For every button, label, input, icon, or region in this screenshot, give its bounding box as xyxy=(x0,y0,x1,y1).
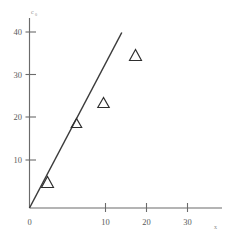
x-axis-tick-labels: 0 10 20 30 xyxy=(27,217,191,227)
y-tick-label-30: 30 xyxy=(14,70,23,80)
x-tick-label-30: 30 xyxy=(183,217,192,227)
y-tick-label-10: 10 xyxy=(14,155,23,165)
y-axis-label-subscript: 0 xyxy=(35,12,37,17)
y-axis-label: c xyxy=(31,9,34,15)
data-markers-group xyxy=(42,50,142,188)
y-axis-ticks xyxy=(26,32,37,160)
y-tick-label-20: 20 xyxy=(14,112,23,122)
axis-labels-group: c 0 x xyxy=(31,9,217,230)
axes-group xyxy=(30,18,223,208)
y-axis-tick-labels: 40 30 20 10 xyxy=(14,27,23,165)
x-tick-label-20: 20 xyxy=(142,217,151,227)
data-point-marker xyxy=(98,98,109,108)
data-point-marker xyxy=(130,50,142,61)
x-tick-label-10: 10 xyxy=(101,217,110,227)
scatter-plot-svg: 40 30 20 10 0 10 20 30 c 0 x xyxy=(0,0,233,237)
chart-container: 40 30 20 10 0 10 20 30 c 0 x xyxy=(0,0,233,237)
x-tick-label-0: 0 xyxy=(27,217,31,227)
y-tick-label-40: 40 xyxy=(14,27,23,37)
x-axis-label: x xyxy=(214,224,217,230)
